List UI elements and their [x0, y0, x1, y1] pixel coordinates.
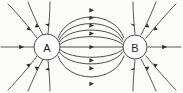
charge-node-b: B	[123, 35, 147, 59]
interior-field-line	[60, 45, 123, 49]
exterior-field-line	[45, 2, 50, 34]
exterior-field-line	[1, 45, 34, 49]
arrow-head-icon	[19, 45, 24, 49]
field-diagram-canvas: A B	[0, 0, 183, 93]
arrow-head-icon	[89, 8, 94, 12]
charge-label-a: A	[43, 42, 51, 54]
exterior-field-line	[130, 60, 135, 91]
arrow-head-icon	[89, 45, 94, 49]
arrow-head-icon	[89, 32, 94, 36]
exterior-field-line	[146, 4, 176, 38]
exterior-field-line	[8, 4, 37, 38]
arrow-head-icon	[89, 24, 94, 28]
exterior-field-line	[130, 2, 135, 34]
interior-field-lines	[58, 8, 124, 86]
arrow-head-icon	[89, 82, 94, 86]
arrow-head-icon	[45, 68, 49, 71]
arrow-head-icon	[89, 58, 94, 62]
arrow-head-icon	[89, 66, 94, 70]
arrow-head-icon	[162, 45, 167, 49]
exterior-field-line	[148, 45, 181, 49]
charge-node-a: A	[34, 34, 60, 60]
field-line-diagram: A B	[0, 0, 183, 93]
arrow-head-icon	[45, 23, 49, 26]
exterior-field-line	[8, 56, 37, 90]
interior-field-line	[60, 50, 123, 63]
arrow-head-icon	[89, 16, 94, 20]
interior-field-line	[60, 32, 123, 45]
exterior-field-line	[146, 56, 176, 90]
charge-label-b: B	[131, 42, 138, 54]
exterior-field-line	[45, 60, 50, 91]
